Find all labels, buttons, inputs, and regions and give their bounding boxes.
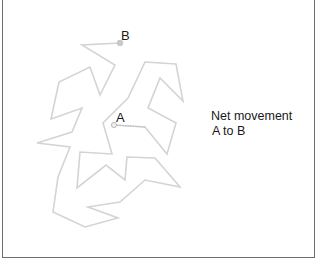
caption: Net movement A to B bbox=[211, 109, 292, 139]
caption-line-1: Net movement bbox=[211, 109, 292, 124]
caption-line-2: A to B bbox=[211, 124, 292, 139]
point-a-label: A bbox=[116, 110, 125, 125]
random-walk-path bbox=[37, 43, 183, 227]
point-b-label: B bbox=[121, 28, 130, 43]
